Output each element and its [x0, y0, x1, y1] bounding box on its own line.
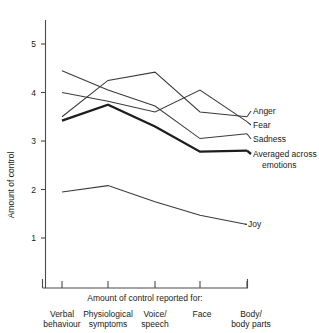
line-chart: 5 4 3 2 1 Amount of control Amount of co… [0, 0, 319, 333]
category-label-line1: Physiological [83, 309, 133, 319]
y-axis-ticks [41, 44, 46, 238]
chart-plot-area: 5 4 3 2 1 Amount of control Amount of co… [0, 0, 319, 333]
series-label-joy: Joy [248, 219, 262, 229]
category-label-line1: Face [193, 309, 212, 319]
series-line-joy [62, 186, 247, 225]
x-axis-category-labels: Verbal behaviour Physiological symptoms … [43, 309, 271, 329]
y-axis-tick-labels: 5 4 3 2 1 [31, 39, 36, 243]
leader-line-anger [247, 111, 251, 117]
y-tick-label: 2 [31, 185, 36, 195]
series-label-fear: Fear [253, 120, 271, 130]
category-label-line2: symptoms [89, 319, 128, 329]
series-label-averaged-line1: Averaged across [253, 149, 317, 159]
y-axis-title: Amount of control [6, 152, 16, 219]
series-label-anger: Anger [253, 106, 276, 116]
category-label-line1: Voice/ [143, 309, 167, 319]
x-axis-bracket [43, 279, 249, 288]
category-label-line1: Verbal [50, 309, 74, 319]
leader-line-fear [247, 122, 251, 125]
leader-line-averaged-across-emotions [247, 151, 251, 154]
series-layer [62, 71, 251, 225]
x-axis-title: Amount of control reported for: [87, 293, 202, 303]
y-tick-label: 1 [31, 233, 36, 243]
series-line-sadness [62, 71, 247, 139]
category-label-line2: behaviour [43, 319, 81, 329]
series-labels: Anger Fear Sadness Averaged across emoti… [248, 106, 317, 229]
series-label-sadness: Sadness [253, 134, 286, 144]
category-label-line2: speech [141, 319, 169, 329]
y-tick-label: 3 [31, 136, 36, 146]
category-label-line1: Body/ [240, 309, 262, 319]
leader-line-sadness [247, 134, 251, 139]
y-tick-label: 5 [31, 39, 36, 49]
category-label-line2: body parts [231, 319, 271, 329]
series-label-averaged-line2: emotions [262, 160, 297, 170]
y-tick-label: 4 [31, 88, 36, 98]
